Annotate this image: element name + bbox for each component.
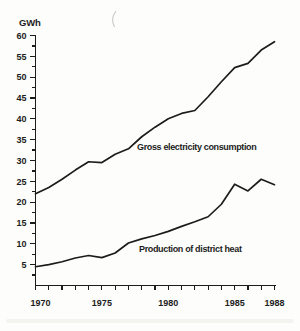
y-tick-label: 20	[16, 197, 26, 207]
y-tick-label: 30	[16, 156, 26, 166]
y-tick-label: 45	[16, 93, 26, 103]
x-tick-label: 1985	[225, 298, 245, 308]
x-tick-label: 1975	[92, 298, 112, 308]
y-tick-label: 5	[21, 260, 26, 270]
tick-labels: 5101520253035404550556019701975198019851…	[16, 31, 284, 308]
y-axis-title: GWh	[19, 17, 41, 28]
y-tick-label: 60	[16, 31, 26, 41]
series-label-district-heat: Production of district heat	[139, 244, 242, 254]
y-tick-label: 55	[16, 52, 26, 62]
y-tick-label: 40	[16, 114, 26, 124]
scan-artifact-bottom	[6, 319, 294, 323]
series-label-electricity: Gross electricity consumption	[137, 142, 256, 152]
x-tick-label: 1980	[158, 298, 178, 308]
y-tick-label: 50	[16, 72, 26, 82]
scan-artifact-top	[113, 11, 116, 27]
y-tick-label: 10	[16, 239, 26, 249]
y-tick-label: 35	[16, 135, 26, 145]
x-tick-label: 1970	[30, 298, 50, 308]
electricity-consumption-line	[36, 42, 275, 194]
x-tick-label: 1988	[264, 298, 284, 308]
chart: GWh 510152025303540455055601970197519801…	[0, 0, 300, 331]
y-tick-label: 25	[16, 177, 26, 187]
y-tick-label: 15	[16, 218, 26, 228]
plot-svg: 5101520253035404550556019701975198019851…	[0, 0, 300, 331]
